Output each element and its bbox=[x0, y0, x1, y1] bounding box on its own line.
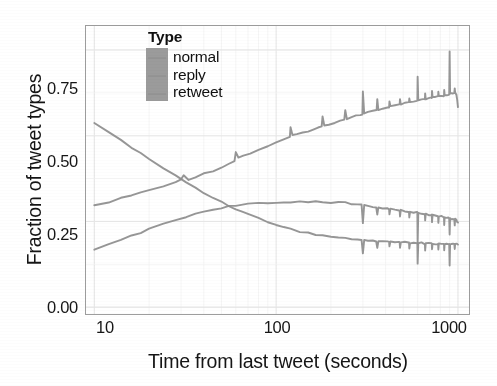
x-tick-label-10: 10 bbox=[96, 318, 114, 337]
legend-keys: normal reply retweet bbox=[146, 48, 258, 101]
legend-swatch-retweet bbox=[148, 93, 166, 95]
chart-legend: Type normal reply retweet bbox=[146, 28, 258, 101]
legend-title: Type bbox=[148, 28, 258, 46]
legend-item-retweet: retweet bbox=[173, 83, 222, 101]
legend-item-normal: normal bbox=[173, 48, 222, 66]
x-tick-label-100: 100 bbox=[264, 318, 291, 337]
legend-swatch-block bbox=[146, 48, 168, 101]
y-tick-label-025: 0.25 bbox=[24, 225, 78, 244]
plot-area bbox=[86, 26, 469, 314]
plot-panel bbox=[85, 25, 470, 315]
x-axis-title: Time from last tweet (seconds) bbox=[85, 350, 471, 373]
y-tick-label-000: 0.00 bbox=[24, 298, 78, 317]
chart-figure: Fraction of tweet types 0.75 0.50 0.25 0… bbox=[0, 0, 497, 386]
y-tick-label-075: 0.75 bbox=[24, 79, 78, 98]
y-axis-tick-labels: 0.75 0.50 0.25 0.00 bbox=[18, 0, 78, 386]
y-tick-label-050: 0.50 bbox=[24, 152, 78, 171]
x-tick-label-1000: 1000 bbox=[431, 318, 467, 337]
legend-swatch-reply bbox=[148, 75, 166, 77]
legend-labels: normal reply retweet bbox=[168, 48, 222, 101]
legend-swatch-normal bbox=[148, 57, 166, 59]
legend-item-reply: reply bbox=[173, 66, 222, 84]
